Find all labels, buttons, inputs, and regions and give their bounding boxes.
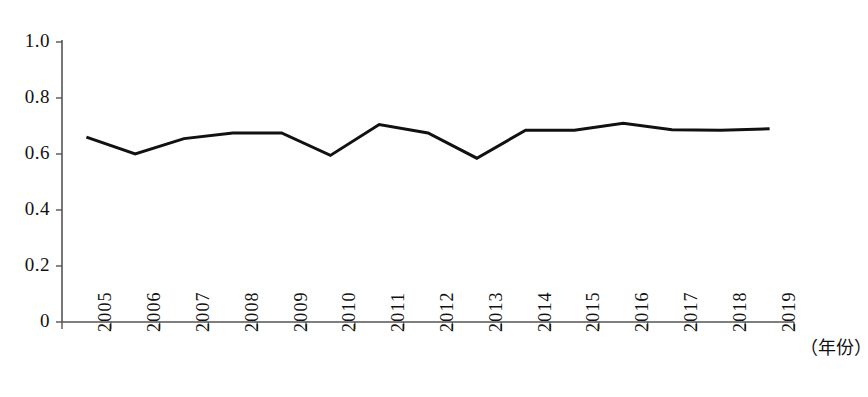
x-axis-tick-label: 2010 bbox=[339, 291, 360, 332]
x-axis-tick-label: 2016 bbox=[632, 291, 653, 332]
x-axis-tick-label: 2013 bbox=[486, 291, 507, 332]
x-axis-unit-label: （年份） bbox=[800, 333, 868, 359]
y-axis-tick-label: 0.2 bbox=[0, 254, 50, 276]
chart-canvas bbox=[0, 0, 868, 397]
x-axis-tick-label: 2017 bbox=[681, 291, 702, 332]
x-axis-tick-label: 2008 bbox=[242, 291, 263, 332]
x-axis-tick-label: 2007 bbox=[193, 291, 214, 332]
y-axis-tick-label: 1.0 bbox=[0, 30, 50, 52]
y-axis-ticks bbox=[56, 42, 62, 322]
y-axis-tick-label: 0 bbox=[0, 310, 50, 332]
x-axis-tick-label: 2015 bbox=[583, 291, 604, 332]
x-axis-tick-label: 2014 bbox=[535, 291, 556, 332]
data-series-line bbox=[86, 123, 769, 158]
y-axis-tick-label: 0.8 bbox=[0, 86, 50, 108]
x-axis-tick-label: 2009 bbox=[291, 291, 312, 332]
x-axis-tick-label: 2018 bbox=[730, 291, 751, 332]
y-axis-tick-label: 0.6 bbox=[0, 142, 50, 164]
x-axis-tick-label: 2011 bbox=[388, 292, 409, 332]
line-chart: 1.00.80.60.40.20 20052006200720082009201… bbox=[0, 0, 868, 397]
x-axis-tick-label: 2019 bbox=[779, 291, 800, 332]
x-axis-tick-label: 2012 bbox=[437, 291, 458, 332]
x-axis-tick-label: 2006 bbox=[144, 291, 165, 332]
y-axis-tick-label: 0.4 bbox=[0, 198, 50, 220]
x-axis-tick-label: 2005 bbox=[95, 291, 116, 332]
